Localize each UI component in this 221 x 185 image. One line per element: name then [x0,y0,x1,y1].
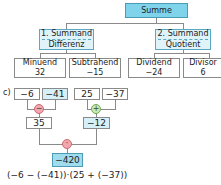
root-label: Summe [141,5,172,16]
subtrahend-box: Subtrahend −15 [69,58,121,78]
connector [40,53,96,54]
multiply-operator-icon: · [62,139,72,149]
result-box: −420 [52,153,83,167]
intermediate-value: 35 [33,118,44,129]
minus-operator-icon: − [34,104,44,114]
connector [27,100,28,109]
connector [55,100,56,109]
result-value: −420 [55,155,80,166]
minuend-box: Minuend 32 [14,58,66,78]
expression-formula: (−6 − (−41))·(25 + (−37)) [7,170,127,180]
connector [87,100,88,109]
part-c-label: c) [3,88,11,97]
intermediate-box: −12 [83,117,110,129]
connector [39,129,40,144]
dividend-label: Dividend [129,58,179,68]
connector [154,53,210,54]
subtrahend-value: −15 [70,68,120,78]
divisor-label: Divisor [184,58,221,68]
divisor-box: Divisor 6 [183,58,221,78]
input-box: 25 [74,88,100,100]
operator-symbol: + [93,105,100,113]
operator-symbol: − [36,105,43,113]
intermediate-box: 35 [26,117,52,129]
subtrahend-label: Subtrahend [70,58,120,68]
input-box: −41 [42,88,68,100]
connector [115,100,116,109]
second-summand-box: 2. Summand Quotient [155,29,211,50]
input-value: −41 [46,89,65,100]
input-value: −37 [106,89,125,100]
divisor-value: 6 [184,68,221,78]
first-summand-type: Differenz [40,40,93,50]
first-summand-title: 1. Summand [40,29,93,39]
input-value: −6 [20,89,33,100]
plus-operator-icon: + [91,104,101,114]
connector [96,129,97,144]
minuend-value: 32 [15,68,65,78]
second-summand-type: Quotient [156,40,210,50]
operator-symbol: · [66,140,69,148]
input-value: 25 [81,89,92,100]
dividend-box: Dividend −24 [128,58,180,78]
input-box: −6 [14,88,40,100]
input-box: −37 [102,88,128,100]
first-summand-box: 1. Summand Differenz [39,29,94,50]
root-summe-box: Summe [125,3,188,18]
connector [66,23,183,24]
intermediate-value: −12 [87,118,106,129]
second-summand-title: 2. Summand [156,29,210,39]
dividend-value: −24 [129,68,179,78]
minuend-label: Minuend [15,58,65,68]
